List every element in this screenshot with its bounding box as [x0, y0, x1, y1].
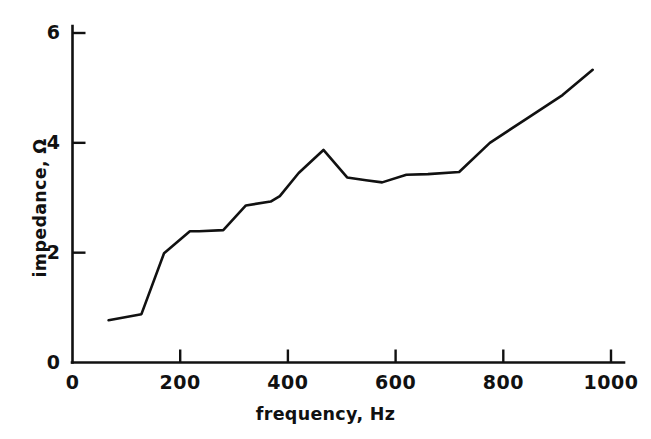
x-axis-ticks — [180, 350, 611, 363]
chart-figure: 0246 02004006008001000 impedance, Ω freq… — [0, 0, 651, 439]
y-axis-ticks — [73, 33, 86, 363]
x-tick-label-400: 400 — [243, 371, 333, 393]
x-tick-label-1000: 1000 — [566, 371, 651, 393]
impedance-curve — [109, 70, 593, 320]
y-tick-label-0: 0 — [27, 351, 61, 373]
y-axis-title: impedance, Ω — [30, 78, 50, 338]
x-tick-label-800: 800 — [458, 371, 548, 393]
y-tick-label-6: 6 — [27, 21, 61, 43]
x-tick-label-600: 600 — [351, 371, 441, 393]
x-axis-title: frequency, Hz — [0, 404, 651, 424]
x-tick-label-0: 0 — [28, 371, 118, 393]
axis-lines — [72, 26, 624, 363]
x-tick-label-200: 200 — [135, 371, 225, 393]
